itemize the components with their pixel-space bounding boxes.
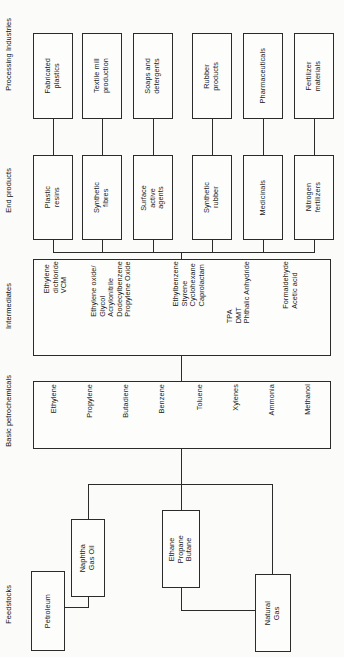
box-nitrogen-fertilizers[interactable]: Nitrogen fertilizers (294, 155, 334, 240)
box-naphtha-gas-oil[interactable]: Naphtha Gas Oil (71, 519, 105, 597)
box-rubber-products[interactable]: Rubber products (192, 33, 232, 119)
connector-medicinals-drop (263, 240, 264, 252)
tier-label-processing-industries: Processing Industries (2, 18, 16, 108)
groupbox-intermediates[interactable]: Ethylene dichloride VCM Ethylene oxide/ … (33, 259, 331, 356)
tier-label-end-products: End products (2, 168, 16, 238)
intermediates-group-oxygenates: Formaldehyde Acetic acid (282, 261, 299, 355)
connector-synthetic-fibres-drop (102, 240, 103, 252)
intermediates-group-chlorinated: Ethylene dichloride VCM (43, 261, 69, 355)
connector-intermediates-to-basics (181, 356, 182, 381)
box-ethane-propane-butane[interactable]: Ethane Propane Butane (162, 510, 200, 588)
connector-basics-drop (181, 449, 182, 484)
basic-item-benzene: Benzene (158, 384, 167, 446)
connector-textile-mill (102, 119, 103, 155)
box-fabricated-plastics[interactable]: Fabricated plastics (33, 33, 73, 119)
bus-end-products (53, 252, 315, 253)
box-medicinals[interactable]: Medicinals (243, 155, 283, 240)
connector-fabricated-plastics (53, 119, 54, 155)
tier-label-intermediates: Intermediates (2, 283, 16, 353)
intermediates-group-aromatics: Ethylbenzene Styrene Cyclohexane Caprola… (172, 261, 206, 355)
intermediates-group-oxides: Ethylene oxide/ Glycol Acrylonitrile Dod… (90, 261, 133, 355)
box-soaps-and-detergents[interactable]: Soaps and detergents (133, 33, 173, 119)
basic-item-ammonia: Ammonia (268, 384, 277, 446)
connector-bus-to-naphtha (88, 484, 89, 519)
basic-item-butadiene: Butadiene (122, 384, 131, 446)
basic-item-ethylene: Ethylene (50, 384, 59, 446)
connector-natural-gas-to-ethane (181, 610, 256, 611)
connector-synthetic-rubber-drop (212, 240, 213, 252)
basic-item-xylenes: Xylenes (232, 384, 241, 446)
box-synthetic-fibres[interactable]: Synthetic fibres (82, 155, 122, 240)
connector-bus-to-intermediates (181, 252, 182, 259)
box-textile-mill-production[interactable]: Textile mill production (82, 33, 122, 119)
groupbox-basic-petrochemicals[interactable]: Ethylene Propylene Butadiene Benzene Tol… (33, 381, 331, 449)
intermediates-group-acids: TPA DMT Phthalic Anhydride (226, 261, 252, 355)
box-natural-gas[interactable]: Natural Gas (255, 574, 291, 652)
box-surface-active-agents[interactable]: Surface active agents (133, 155, 173, 240)
box-fertilizer-materials[interactable]: Fertilizer materials (294, 33, 334, 119)
basic-item-propylene: Propylene (86, 384, 95, 446)
connector-plastic-resins-drop (53, 240, 54, 252)
connector-rubber-products (212, 119, 213, 155)
connector-pharmaceuticals (263, 119, 264, 155)
connector-nitrogen-fertilizers-drop (314, 240, 315, 252)
basic-item-methanol: Methanol (304, 384, 313, 446)
petrochemical-flow-diagram: Processing Industries End products Inter… (0, 0, 344, 657)
connector-bus-to-ethane (181, 484, 182, 510)
tier-label-feedstocks: Feedstocks (2, 585, 16, 645)
connector-ethane-down (181, 588, 182, 610)
connector-naphtha-down (88, 597, 89, 607)
connector-surface-active-agents-drop (153, 240, 154, 252)
tier-label-basic-petrochemicals: Basic petrochemicals (2, 375, 16, 455)
box-petroleum[interactable]: Petroleum (31, 571, 65, 651)
box-synthetic-rubber[interactable]: Synthetic rubber (192, 155, 232, 240)
connector-soaps-detergents (153, 119, 154, 155)
connector-bus-to-natural-gas (272, 484, 273, 574)
connector-fertilizer-materials (314, 119, 315, 155)
box-pharmaceuticals[interactable]: Pharmaceuticals (243, 33, 283, 119)
basic-item-toluene: Toluene (196, 384, 205, 446)
box-plastic-resins[interactable]: Plastic resins (33, 155, 73, 240)
connector-petroleum-to-naphtha (65, 607, 89, 608)
